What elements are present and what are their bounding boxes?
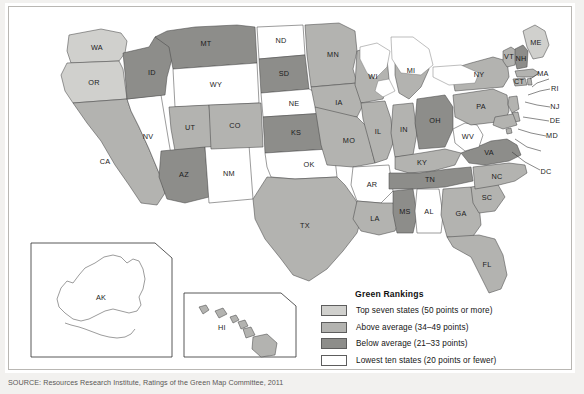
state-label-ks: KS <box>291 128 301 137</box>
state-label-nh: NH <box>515 54 526 63</box>
state-label-md: MD <box>546 131 558 140</box>
state-label-co: CO <box>229 121 241 130</box>
state-label-ca: CA <box>100 157 111 166</box>
hawaii-inset: HI <box>184 293 296 357</box>
state-label-nd: ND <box>275 36 286 45</box>
state-label-ak: AK <box>96 293 106 302</box>
state-label-ma: MA <box>537 69 548 78</box>
state-label-me: ME <box>530 38 541 47</box>
legend-item[interactable]: Below average (21–33 points) <box>321 338 561 349</box>
state-dc[interactable] <box>506 128 512 134</box>
state-label-tn: TN <box>425 175 435 184</box>
source-note: SOURCE: Resources Research Institute, Ra… <box>8 378 568 387</box>
state-label-al: AL <box>424 207 433 216</box>
legend-swatch-top7 <box>321 305 347 316</box>
state-label-in: IN <box>400 125 408 134</box>
state-label-ms: MS <box>399 207 410 216</box>
legend-title: Green Rankings <box>355 289 561 299</box>
state-label-sd: SD <box>279 69 290 78</box>
legend-swatch-lowest <box>321 355 347 366</box>
state-label-or: OR <box>88 78 99 87</box>
state-label-nv: NV <box>143 132 154 141</box>
state-label-ny: NY <box>474 70 485 79</box>
legend-item[interactable]: Top seven states (50 points or more) <box>321 305 561 316</box>
state-label-nj: NJ <box>550 102 560 111</box>
state-label-ga: GA <box>455 209 466 218</box>
state-label-vt: VT <box>504 52 514 61</box>
state-label-ar: AR <box>367 180 378 189</box>
map-figure-frame: WAORCANVIDMTWYUTAZNMCONDSDNEKSOKTXMNIAMO… <box>8 6 572 370</box>
state-ri[interactable] <box>527 78 532 85</box>
legend-label-below: Below average (21–33 points) <box>356 339 468 348</box>
state-label-wv: WV <box>462 132 474 141</box>
state-label-ri: RI <box>551 84 559 93</box>
state-label-ne: NE <box>289 99 300 108</box>
state-label-il: IL <box>375 127 382 136</box>
legend-item[interactable]: Lowest ten states (20 points or fewer) <box>321 355 561 366</box>
legend-label-above: Above average (34–49 points) <box>356 323 469 332</box>
state-label-wi: WI <box>368 72 377 81</box>
state-label-hi: HI <box>218 323 226 332</box>
state-label-mo: MO <box>343 136 355 145</box>
state-label-ky: KY <box>417 158 427 167</box>
state-label-az: AZ <box>179 170 189 179</box>
legend-item[interactable]: Above average (34–49 points) <box>321 322 561 333</box>
state-label-ct: CT <box>514 77 525 86</box>
state-nj[interactable] <box>508 96 519 113</box>
legend-label-lowest: Lowest ten states (20 points or fewer) <box>356 356 496 365</box>
state-label-oh: OH <box>429 116 440 125</box>
state-label-wa: WA <box>91 43 103 52</box>
alaska-inset: AK <box>31 243 172 357</box>
state-label-tx: TX <box>300 221 310 230</box>
state-label-mn: MN <box>327 50 339 59</box>
state-label-mi: MI <box>407 66 416 75</box>
state-label-wy: WY <box>210 80 222 89</box>
legend-swatch-above <box>321 322 347 333</box>
state-label-fl: FL <box>482 260 491 269</box>
state-label-de: DE <box>550 116 561 125</box>
legend: Green Rankings Top seven states (50 poin… <box>321 289 561 371</box>
legend-swatch-below <box>321 338 347 349</box>
state-label-nm: NM <box>223 169 235 178</box>
state-label-id: ID <box>148 68 156 77</box>
state-fl[interactable] <box>447 235 507 293</box>
state-label-la: LA <box>370 214 379 223</box>
state-label-va: VA <box>484 148 494 157</box>
state-label-ia: IA <box>335 98 342 107</box>
state-label-mt: MT <box>200 39 211 48</box>
state-label-dc: DC <box>540 167 551 176</box>
state-label-pa: PA <box>476 102 486 111</box>
state-label-nc: NC <box>491 172 502 181</box>
state-label-ut: UT <box>185 123 196 132</box>
state-label-sc: SC <box>482 193 493 202</box>
state-label-ok: OK <box>303 160 314 169</box>
legend-label-top7: Top seven states (50 points or more) <box>356 306 492 315</box>
